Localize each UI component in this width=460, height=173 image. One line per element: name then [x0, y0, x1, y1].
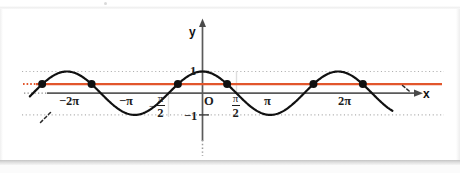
x-tick-label-2pi: 2π [338, 95, 351, 108]
intersection-point [88, 80, 96, 88]
fraction-sign: − [149, 100, 156, 112]
origin-label: O [204, 95, 214, 108]
curve-tail-left [41, 113, 51, 123]
x-tick-label-minus-pi-over-2: − π 2 [149, 93, 165, 120]
intersection-point [309, 80, 317, 88]
x-tick-label-minus-2pi: −2π [59, 95, 79, 108]
intersection-point [38, 80, 46, 88]
y-tick-label-1: 1 [190, 65, 196, 78]
x-axis-label: x [423, 88, 430, 100]
intersection-point [223, 80, 231, 88]
fraction-denominator: 2 [232, 107, 240, 120]
figure-page: y x O 1 −1 −2π −π π 2π − π 2 π 2 [0, 0, 460, 173]
fraction-numerator: π [232, 93, 240, 104]
y-tick-label-minus-1: −1 [184, 110, 197, 123]
cosine-plot [0, 0, 460, 173]
y-axis-label: y [189, 26, 196, 38]
x-tick-label-pi: π [264, 95, 271, 108]
y-axis-arrowhead [199, 19, 206, 28]
fraction: π 2 [232, 93, 240, 120]
x-tick-label-pi-over-2: π 2 [231, 93, 240, 120]
fraction-denominator: 2 [156, 107, 164, 120]
fraction-numerator: π [157, 93, 165, 104]
x-axis-arrowhead [414, 90, 423, 97]
x-tick-label-minus-pi: −π [119, 95, 133, 108]
intersection-point [174, 80, 182, 88]
fraction: π 2 [156, 93, 164, 120]
curve-tail-right [403, 86, 412, 93]
intersection-point [359, 80, 367, 88]
